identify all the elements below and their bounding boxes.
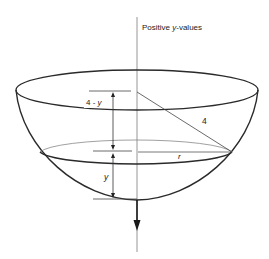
liquid-depth-label: y xyxy=(103,172,109,182)
axis-label-suffix: -values xyxy=(176,23,202,32)
arrow-up-icon xyxy=(111,153,115,158)
arrow-down-icon xyxy=(134,220,141,231)
liquid-surface-front xyxy=(40,152,232,164)
sphere-radius-line xyxy=(137,92,232,152)
arrow-up-icon xyxy=(111,92,115,97)
axis-label-prefix: Positive xyxy=(142,23,172,32)
sphere-radius-label: 4 xyxy=(202,116,207,126)
surface-radius-label: r xyxy=(178,152,181,161)
hemisphere-bowl-diagram: Positive y-values 4 r 4 - y y xyxy=(0,0,269,259)
liquid-surface-back xyxy=(40,140,232,152)
axis-label: Positive y-values xyxy=(142,23,202,32)
arrow-down-icon xyxy=(111,145,115,150)
upper-depth-label: 4 - y xyxy=(86,98,103,107)
